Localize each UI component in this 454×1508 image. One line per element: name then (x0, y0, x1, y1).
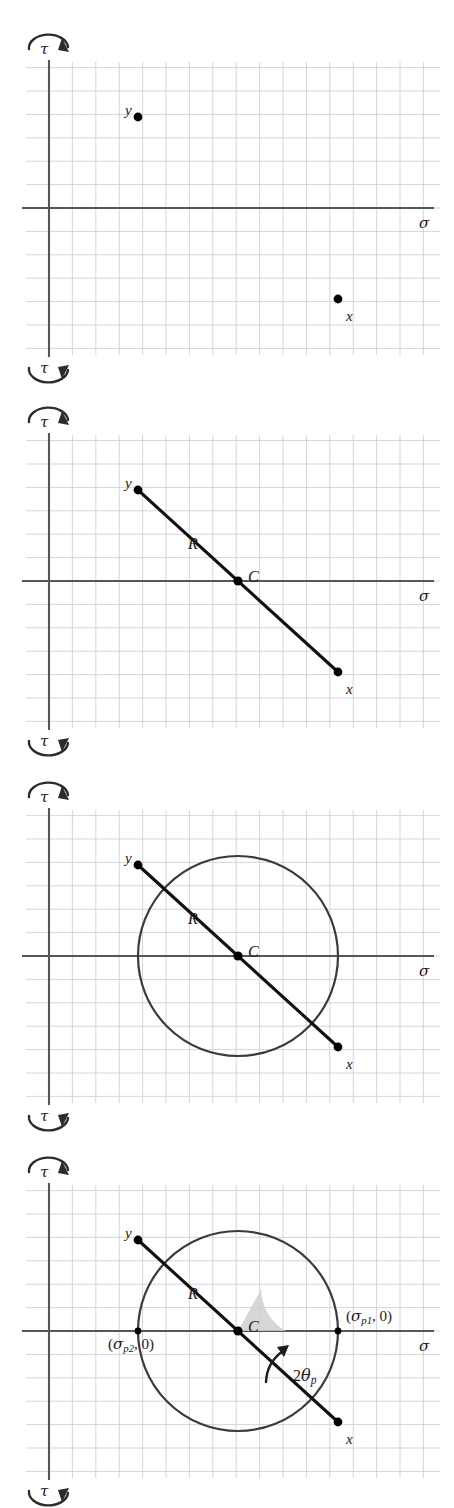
point-y-label: y (125, 1226, 132, 1241)
angle-sweep-arrow-icon (266, 1345, 289, 1382)
data-point-x (334, 668, 343, 677)
point-x-label: x (346, 309, 353, 324)
data-point-y (134, 1236, 143, 1245)
data-point-x (334, 1418, 343, 1427)
tau-top-arc-icon (29, 1158, 69, 1175)
center-label-C: C (248, 1319, 259, 1335)
panel-1: ττσyx (0, 0, 454, 355)
data-point-x (334, 1043, 343, 1052)
panel-1-canvas (0, 0, 454, 400)
tau-top-arc-icon (29, 783, 69, 800)
radius-label-R: R (188, 536, 198, 552)
sigma-p2-point (135, 1328, 142, 1335)
tau-top-arc-icon (29, 408, 69, 425)
axes (22, 1183, 434, 1480)
center-label-C: C (248, 569, 259, 585)
angle-label-2theta-p: 2θp (293, 1368, 316, 1387)
point-y-label: y (125, 476, 132, 491)
panel-4: ττσyxCR(σp1, 0)(σp2, 0)2θp (0, 1123, 454, 1478)
panel-3: ττσyxCR (0, 748, 454, 1103)
tau-top-label: τ (40, 415, 48, 430)
radius-label-R: R (188, 1286, 198, 1302)
sigma-p1-label: (σp1, 0) (346, 1309, 392, 1326)
center-point-C (233, 1326, 242, 1335)
data-point-x (334, 295, 343, 304)
data-point-y (134, 486, 143, 495)
data-point-y (134, 113, 143, 122)
tau-bottom-label: τ (40, 734, 48, 749)
sigma-p2-label: (σp2, 0) (108, 1337, 154, 1354)
tau-top-label: τ (40, 1165, 48, 1180)
point-x-label: x (346, 682, 353, 697)
point-y-label: y (125, 103, 132, 118)
axes (22, 808, 434, 1105)
panel-2: ττσyxCR (0, 373, 454, 728)
point-y-label: y (125, 851, 132, 866)
sigma-axis-label: σ (419, 589, 429, 604)
tau-bottom-arc-icon (29, 1488, 69, 1505)
center-point-C (233, 576, 242, 585)
axes (22, 433, 434, 730)
point-x-label: x (346, 1057, 353, 1072)
sigma-p1-point (335, 1328, 342, 1335)
tau-bottom-label: τ (40, 1484, 48, 1499)
tau-top-label: τ (40, 42, 48, 57)
tau-top-arc-icon (29, 35, 69, 52)
mohrs-circle-figure: ττσyxττσyxCRττσyxCRττσyxCR(σp1, 0)(σp2, … (0, 0, 454, 1508)
axes (22, 60, 434, 357)
angle-wedge (238, 1289, 286, 1331)
center-label-C: C (248, 944, 259, 960)
panel-2-canvas (0, 373, 454, 773)
tau-top-label: τ (40, 790, 48, 805)
radius-label-R: R (188, 911, 198, 927)
data-point-y (134, 861, 143, 870)
point-x-label: x (346, 1432, 353, 1447)
sigma-axis-label: σ (419, 216, 429, 231)
center-point-C (233, 951, 242, 960)
sigma-axis-label: σ (419, 964, 429, 979)
tau-bottom-label: τ (40, 1109, 48, 1124)
sigma-axis-label: σ (419, 1339, 429, 1354)
panel-3-canvas (0, 748, 454, 1148)
